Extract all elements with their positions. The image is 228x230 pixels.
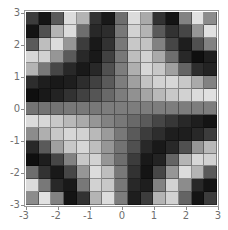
heatmap-cell	[204, 128, 217, 141]
heatmap-cell	[128, 154, 141, 167]
heatmap-cell	[141, 154, 154, 167]
heatmap-cell	[141, 128, 154, 141]
heatmap-cell	[64, 166, 77, 179]
heatmap-cell	[128, 76, 141, 89]
heatmap-cell	[166, 51, 179, 64]
heatmap-cell	[115, 192, 128, 205]
heatmap-cell	[128, 38, 141, 51]
heatmap-cell	[77, 115, 90, 128]
heatmap-cell	[26, 102, 39, 115]
heatmap-cell	[90, 166, 103, 179]
heatmap-cell	[128, 141, 141, 154]
y-tick-label: -2	[0, 168, 20, 178]
heatmap-cell	[192, 102, 205, 115]
heatmap-cell	[26, 63, 39, 76]
heatmap-cell	[64, 141, 77, 154]
heatmap-cell	[26, 128, 39, 141]
heatmap-cell	[64, 63, 77, 76]
heatmap-cell	[166, 179, 179, 192]
heatmap-cell	[141, 166, 154, 179]
heatmap-cell	[204, 12, 217, 25]
heatmap-cell	[204, 115, 217, 128]
heatmap-cell	[192, 192, 205, 205]
y-tick-label: -1	[0, 136, 20, 146]
heatmap-cell	[115, 154, 128, 167]
heatmap-cell	[77, 25, 90, 38]
heatmap-cell	[179, 63, 192, 76]
x-tick-label: -1	[78, 211, 98, 221]
heatmap-cell	[128, 179, 141, 192]
x-tick-label: -3	[14, 211, 34, 221]
heatmap-cell	[39, 12, 52, 25]
heatmap-cell	[192, 38, 205, 51]
x-tick-label: 3	[208, 211, 228, 221]
heatmap-cell	[128, 25, 141, 38]
heatmap-cell	[51, 76, 64, 89]
heatmap-cell	[64, 12, 77, 25]
heatmap-cell	[77, 12, 90, 25]
heatmap-cell	[179, 115, 192, 128]
heatmap-cell	[64, 154, 77, 167]
heatmap-cell	[51, 25, 64, 38]
heatmap-cell	[39, 89, 52, 102]
heatmap-cell	[204, 179, 217, 192]
heatmap-cell	[51, 51, 64, 64]
y-tick-mark	[21, 141, 24, 142]
heatmap-cell	[115, 115, 128, 128]
heatmap-cell	[102, 102, 115, 115]
x-tick-label: 2	[176, 211, 196, 221]
heatmap-cell	[51, 128, 64, 141]
heatmap-cell	[128, 89, 141, 102]
heatmap-cell	[179, 89, 192, 102]
heatmap-cell	[153, 192, 166, 205]
heatmap-cell	[26, 38, 39, 51]
heatmap-cell	[39, 102, 52, 115]
heatmap-cell	[102, 25, 115, 38]
heatmap-cell	[39, 51, 52, 64]
heatmap-cell	[141, 12, 154, 25]
heatmap-cell	[115, 128, 128, 141]
heatmap-cell	[179, 192, 192, 205]
heatmap-cell	[64, 25, 77, 38]
heatmap-cell	[39, 166, 52, 179]
heatmap-cell	[115, 141, 128, 154]
heatmap-cell	[128, 192, 141, 205]
heatmap-cell	[102, 192, 115, 205]
heatmap-cell	[141, 25, 154, 38]
heatmap-cell	[64, 102, 77, 115]
heatmap-cell	[153, 141, 166, 154]
y-tick-mark	[21, 109, 24, 110]
heatmap-cell	[39, 63, 52, 76]
heatmap-cell	[90, 102, 103, 115]
heatmap-cell	[204, 25, 217, 38]
heatmap-cell	[77, 192, 90, 205]
heatmap-cell	[26, 51, 39, 64]
heatmap-cell	[26, 154, 39, 167]
heatmap-cell	[204, 166, 217, 179]
heatmap-cell	[128, 63, 141, 76]
heatmap-cell	[26, 179, 39, 192]
heatmap-cell	[153, 63, 166, 76]
heatmap-cell	[204, 51, 217, 64]
x-tick-label: 1	[144, 211, 164, 221]
heatmap-cell	[39, 192, 52, 205]
heatmap-cell	[26, 12, 39, 25]
heatmap-cell	[51, 102, 64, 115]
heatmap-cell	[64, 38, 77, 51]
heatmap-cell	[102, 38, 115, 51]
heatmap-cell	[204, 89, 217, 102]
density-plot-frame	[24, 10, 219, 207]
heatmap-cell	[153, 115, 166, 128]
heatmap-cell	[166, 25, 179, 38]
heatmap-cell	[141, 63, 154, 76]
heatmap-cell	[39, 76, 52, 89]
heatmap-cell	[77, 76, 90, 89]
heatmap-cell	[77, 51, 90, 64]
heatmap-cell	[115, 38, 128, 51]
heatmap-cell	[51, 179, 64, 192]
heatmap-cell	[90, 76, 103, 89]
heatmap-cell	[51, 115, 64, 128]
heatmap-cell	[64, 128, 77, 141]
heatmap-cell	[102, 51, 115, 64]
heatmap-cell	[102, 166, 115, 179]
